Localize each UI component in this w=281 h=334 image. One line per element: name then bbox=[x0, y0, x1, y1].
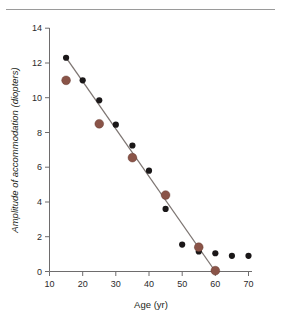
y-axis-ticks bbox=[45, 28, 50, 271]
x-tick-label: 60 bbox=[210, 279, 220, 289]
data-point bbox=[162, 206, 168, 212]
y-tick-label: 6 bbox=[37, 162, 42, 172]
data-point bbox=[212, 250, 218, 256]
y-tick-label: 10 bbox=[32, 93, 42, 103]
data-point bbox=[161, 191, 170, 200]
y-tick-label: 14 bbox=[32, 23, 42, 33]
data-point bbox=[229, 253, 235, 259]
y-tick-label: 2 bbox=[37, 232, 42, 242]
y-axis-tick-labels: 0 2 4 6 8 10 12 14 bbox=[32, 23, 42, 276]
x-tick-label: 30 bbox=[111, 279, 121, 289]
x-axis-title: Age (yr) bbox=[134, 299, 168, 310]
x-tick-label: 10 bbox=[44, 279, 54, 289]
y-axis-title: Amplitude of accommodation (diopters) bbox=[9, 67, 20, 233]
data-point bbox=[80, 77, 86, 83]
regression-line bbox=[66, 58, 215, 272]
data-point bbox=[211, 266, 220, 275]
x-axis-tick-labels: 10 20 30 40 50 60 70 bbox=[44, 279, 253, 289]
data-point bbox=[245, 253, 251, 259]
data-point bbox=[62, 76, 71, 85]
data-point bbox=[194, 243, 203, 252]
series-black-markers bbox=[63, 55, 252, 259]
y-tick-label: 0 bbox=[37, 267, 42, 277]
y-tick-label: 4 bbox=[37, 197, 42, 207]
data-point bbox=[128, 153, 137, 162]
data-point bbox=[179, 241, 185, 247]
y-tick-label: 8 bbox=[37, 128, 42, 138]
scatter-plot: 0 2 4 6 8 10 12 14 10 20 30 40 50 60 bbox=[0, 0, 281, 334]
data-point bbox=[95, 119, 104, 128]
data-point bbox=[113, 122, 119, 128]
caption-strip bbox=[0, 326, 281, 334]
x-tick-label: 20 bbox=[78, 279, 88, 289]
series-brown-markers bbox=[62, 76, 220, 275]
y-tick-label: 12 bbox=[32, 58, 42, 68]
data-point bbox=[146, 168, 152, 174]
figure-container: 0 2 4 6 8 10 12 14 10 20 30 40 50 60 bbox=[0, 0, 281, 334]
data-point bbox=[96, 97, 102, 103]
x-tick-label: 70 bbox=[243, 279, 253, 289]
data-point bbox=[63, 55, 69, 61]
x-tick-label: 40 bbox=[144, 279, 154, 289]
x-tick-label: 50 bbox=[177, 279, 187, 289]
data-point bbox=[129, 142, 135, 148]
